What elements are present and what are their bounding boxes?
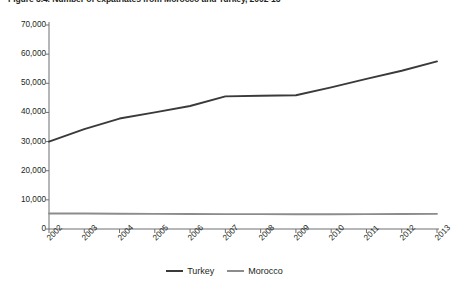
- series-lines: [49, 61, 437, 214]
- figure-title: Figure 3.4. Number of expatriates from M…: [8, 0, 438, 5]
- legend-label-turkey: Turkey: [187, 266, 214, 276]
- legend-swatch-turkey: [166, 270, 183, 272]
- chart-legend: TurkeyMorocco: [0, 266, 449, 276]
- legend-label-morocco: Morocco: [248, 266, 283, 276]
- chart-plot-area: 010,00020,00030,00040,00050,00060,00070,…: [0, 14, 449, 262]
- legend-entry-turkey: Turkey: [166, 266, 214, 276]
- legend-swatch-morocco: [227, 270, 244, 272]
- series-line-morocco: [49, 214, 437, 215]
- legend-entry-morocco: Morocco: [227, 266, 283, 276]
- x-axis-tick-labels: 2002200320042005200620072008200920102011…: [0, 14, 449, 74]
